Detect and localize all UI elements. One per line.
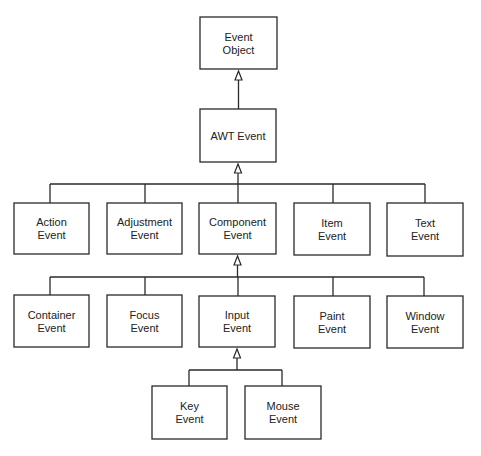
node-label: Event bbox=[318, 323, 346, 335]
class-hierarchy-diagram: EventObjectAWT EventActionEventAdjustmen… bbox=[0, 0, 481, 456]
node-label: Item bbox=[321, 217, 342, 229]
node-label: Window bbox=[405, 310, 444, 322]
node-label: Event bbox=[37, 322, 65, 334]
node-item-event: ItemEvent bbox=[294, 203, 370, 255]
node-label: Focus bbox=[130, 309, 160, 321]
node-focus-event: FocusEvent bbox=[107, 295, 182, 347]
node-label: Action bbox=[36, 216, 67, 228]
node-paint-event: PaintEvent bbox=[294, 296, 370, 348]
node-label: Event bbox=[37, 229, 65, 241]
node-label: Paint bbox=[319, 310, 344, 322]
inheritance-arrow-icon bbox=[235, 164, 242, 173]
node-input-event: InputEvent bbox=[199, 296, 275, 347]
node-label: Event bbox=[223, 229, 251, 241]
node-label: Adjustment bbox=[117, 216, 172, 228]
node-label: Component bbox=[209, 216, 266, 228]
node-event-object: EventObject bbox=[200, 17, 277, 69]
node-label: Event bbox=[411, 230, 439, 242]
node-mouse-event: MouseEvent bbox=[245, 386, 321, 439]
node-label: Event bbox=[175, 413, 203, 425]
node-component-event: ComponentEvent bbox=[199, 203, 276, 254]
node-label: Object bbox=[223, 44, 255, 56]
node-label: Event bbox=[223, 322, 251, 334]
node-label: Event bbox=[130, 322, 158, 334]
inheritance-arrow-icon bbox=[234, 256, 241, 265]
node-label: Key bbox=[180, 400, 199, 412]
edge-awt_event bbox=[50, 164, 425, 203]
node-label: Input bbox=[225, 309, 249, 321]
node-adjustment-event: AdjustmentEvent bbox=[107, 203, 182, 254]
edge-component_event bbox=[50, 256, 424, 296]
inheritance-arrow-icon bbox=[234, 349, 241, 358]
node-text-event: TextEvent bbox=[387, 203, 463, 256]
node-action-event: ActionEvent bbox=[14, 203, 89, 254]
node-label: Event bbox=[269, 413, 297, 425]
node-label: Text bbox=[415, 217, 435, 229]
edge-input_event bbox=[189, 349, 282, 386]
edge-event_object bbox=[235, 71, 242, 109]
inheritance-arrow-icon bbox=[235, 71, 242, 80]
node-label: Mouse bbox=[266, 400, 299, 412]
node-label: Event bbox=[411, 323, 439, 335]
node-awt-event: AWT Event bbox=[200, 109, 276, 162]
node-label: Container bbox=[28, 309, 76, 321]
node-window-event: WindowEvent bbox=[387, 296, 463, 348]
node-container-event: ContainerEvent bbox=[14, 295, 89, 347]
node-label: Event bbox=[224, 31, 252, 43]
node-label: Event bbox=[318, 230, 346, 242]
node-label: Event bbox=[130, 229, 158, 241]
node-key-event: KeyEvent bbox=[152, 386, 227, 439]
node-label: AWT Event bbox=[210, 130, 265, 142]
